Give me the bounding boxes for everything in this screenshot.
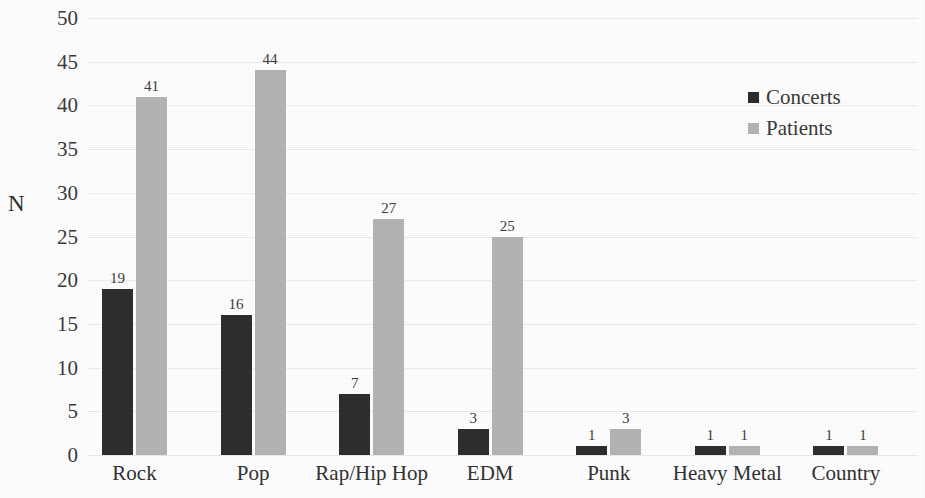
bar-group: 727 xyxy=(325,18,444,455)
y-axis-tick-label: 10 xyxy=(32,358,78,379)
bar-value-label: 3 xyxy=(622,411,630,426)
bar-value-label: 1 xyxy=(741,428,749,443)
bar-value-label: 25 xyxy=(500,219,515,234)
bar-concerts[interactable]: 3 xyxy=(458,429,489,455)
legend-item[interactable]: Patients xyxy=(748,113,908,144)
bar-fill xyxy=(373,219,404,455)
legend-item[interactable]: Concerts xyxy=(748,82,908,113)
bar-patients[interactable]: 1 xyxy=(729,446,760,455)
bar-value-label: 19 xyxy=(110,271,125,286)
bar-value-label: 41 xyxy=(144,79,159,94)
bar-concerts[interactable]: 1 xyxy=(813,446,844,455)
bar-fill xyxy=(847,446,878,455)
bar-fill xyxy=(221,315,252,455)
y-axis-tick-label: 20 xyxy=(32,270,78,291)
bar-fill xyxy=(813,446,844,455)
x-axis-tick-label: Country xyxy=(756,463,925,484)
bar-concerts[interactable]: 7 xyxy=(339,394,370,455)
bar-group: 325 xyxy=(444,18,563,455)
bar-value-label: 1 xyxy=(588,428,596,443)
bar-fill xyxy=(695,446,726,455)
bar-value-label: 1 xyxy=(825,428,833,443)
bar-value-label: 44 xyxy=(263,52,278,67)
bar-concerts[interactable]: 1 xyxy=(576,446,607,455)
bar-value-label: 7 xyxy=(351,376,359,391)
y-axis-tick-label: 5 xyxy=(32,401,78,422)
bar-patients[interactable]: 25 xyxy=(492,237,523,456)
bar-chart: N 50454035302520151050 19411644727325131… xyxy=(0,0,925,498)
bar-concerts[interactable]: 19 xyxy=(102,289,133,455)
bar-fill xyxy=(576,446,607,455)
y-axis-tick-label: 25 xyxy=(32,227,78,248)
bar-value-label: 1 xyxy=(707,428,715,443)
bar-group: 13 xyxy=(562,18,681,455)
bar-fill xyxy=(102,289,133,455)
bar-patients[interactable]: 27 xyxy=(373,219,404,455)
bar-value-label: 16 xyxy=(229,297,244,312)
bar-value-label: 27 xyxy=(381,201,396,216)
legend-item-label: Concerts xyxy=(766,87,841,108)
bar-fill xyxy=(339,394,370,455)
bar-fill xyxy=(458,429,489,455)
bar-fill xyxy=(610,429,641,455)
bar-value-label: 3 xyxy=(469,411,477,426)
y-axis-tick-labels: 50454035302520151050 xyxy=(32,0,78,498)
bar-patients[interactable]: 3 xyxy=(610,429,641,455)
y-axis-tick-label: 15 xyxy=(32,314,78,335)
bar-fill xyxy=(729,446,760,455)
y-axis-tick-label: 50 xyxy=(32,8,78,29)
chart-legend: ConcertsPatients xyxy=(748,82,908,144)
y-axis-tick-label: 35 xyxy=(32,139,78,160)
legend-swatch-icon xyxy=(748,123,759,134)
legend-item-label: Patients xyxy=(766,118,833,139)
bar-concerts[interactable]: 1 xyxy=(695,446,726,455)
bar-patients[interactable]: 44 xyxy=(255,70,286,455)
bar-group: 1941 xyxy=(88,18,207,455)
bar-fill xyxy=(492,237,523,456)
y-axis-tick-label: 40 xyxy=(32,95,78,116)
y-axis-title: N xyxy=(8,192,25,215)
bar-concerts[interactable]: 16 xyxy=(221,315,252,455)
bar-fill xyxy=(255,70,286,455)
bar-patients[interactable]: 41 xyxy=(136,97,167,455)
bar-value-label: 1 xyxy=(859,428,867,443)
bar-fill xyxy=(136,97,167,455)
y-axis-tick-label: 45 xyxy=(32,52,78,73)
legend-swatch-icon xyxy=(748,92,759,103)
bar-patients[interactable]: 1 xyxy=(847,446,878,455)
gridline xyxy=(88,455,918,456)
bar-group: 1644 xyxy=(207,18,326,455)
y-axis-tick-label: 30 xyxy=(32,183,78,204)
